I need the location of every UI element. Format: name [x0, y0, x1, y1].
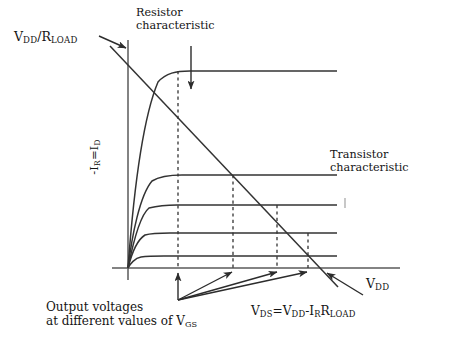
- transistor-characteristic-line1: Transistor: [330, 148, 409, 161]
- load-line: [110, 46, 338, 287]
- operating-point-arrow-2: [178, 272, 232, 300]
- transistor-characteristic-curves: [128, 71, 337, 268]
- resistor-load-line: [110, 46, 338, 287]
- vdd-axis-arrow: [327, 273, 363, 295]
- transistor-curve-1: [128, 71, 337, 268]
- label-output-voltages: Output voltages at different values of V…: [46, 300, 197, 330]
- transistor-characteristic-line2: characteristic: [330, 161, 409, 174]
- resistor-characteristic-line2: characteristic: [136, 19, 215, 32]
- operating-point-droplines: [178, 71, 308, 268]
- label-vdd-over-rload: VDD/RLOAD: [14, 30, 77, 45]
- transistor-curve-4: [128, 233, 337, 268]
- resistor-characteristic-line1: Resistor: [136, 6, 215, 19]
- label-vds-equation: VDS=VDD-IRRLOAD: [251, 304, 356, 320]
- operating-point-arrow-4: [178, 272, 307, 300]
- label-vdd-axis: VDD: [366, 277, 389, 292]
- operating-point-arrow-3: [178, 272, 277, 300]
- output-voltages-line2: at different values of VGS: [46, 314, 197, 329]
- vdd-rload-arrow: [99, 36, 126, 48]
- label-current-axis: -IR=ID: [88, 124, 102, 190]
- label-resistor-characteristic: Resistor characteristic: [136, 6, 215, 32]
- label-transistor-characteristic: Transistor characteristic: [330, 148, 409, 174]
- output-voltages-line1: Output voltages: [46, 300, 197, 314]
